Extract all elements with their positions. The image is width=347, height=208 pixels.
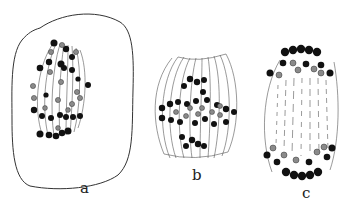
- figure-drawing: [0, 0, 347, 208]
- panel-label-a: a: [80, 181, 89, 196]
- panel-label-c: c: [302, 186, 310, 201]
- figure: a b c: [0, 0, 347, 208]
- panel-c-drawing: [264, 45, 339, 180]
- panel-label-b: b: [192, 168, 202, 183]
- panel-a-drawing: [12, 14, 133, 189]
- chromosomes-c-dark: [264, 45, 336, 180]
- panel-b-drawing: [155, 54, 237, 158]
- chromosomes-a-dark: [31, 40, 91, 140]
